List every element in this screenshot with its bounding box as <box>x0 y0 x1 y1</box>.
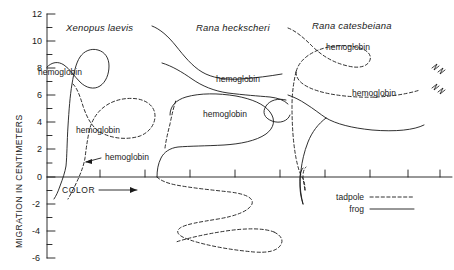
y-tick-label: 6 <box>20 90 42 100</box>
y-tick-label: 4 <box>20 117 42 127</box>
hemoglobin-label: hemoglobin <box>203 109 247 119</box>
y-tick-label: -6 <box>18 253 40 263</box>
axis-break-mark-upper <box>432 64 445 74</box>
trace-catesbeiana-spike-dashed <box>303 167 306 190</box>
hemoglobin-label: hemoglobin <box>352 88 396 98</box>
color-arrow-head <box>130 187 137 193</box>
hemoglobin-label: hemoglobin <box>38 67 82 77</box>
baseline-ticks <box>100 170 440 177</box>
figure-canvas: MIGRATION IN CENTIMETERS 12 10 8 6 4 2 0… <box>0 0 454 270</box>
color-axis-label: COLOR <box>62 185 95 195</box>
trace-heckscheri-tadpole <box>165 100 176 148</box>
hemoglobin-label: hemoglobin <box>216 74 260 84</box>
trace-catesbeiana-spike-solid <box>300 168 303 204</box>
y-tick-label: -2 <box>18 199 40 209</box>
hemoglobin-label: hemoglobin <box>76 125 120 135</box>
species-label-rana-catesbeiana: Rana catesbeiana <box>312 20 392 31</box>
legend-label-frog: frog <box>320 204 364 214</box>
hemoglobin-label: hemoglobin <box>326 42 370 52</box>
trace-catesbeiana-frog-2 <box>326 118 424 131</box>
trace-heckscheri-tadpole-2 <box>157 177 282 252</box>
species-label-rana-heckscheri: Rana heckscheri <box>196 22 270 33</box>
trace-catesbeiana-frog <box>288 95 326 118</box>
species-label-xenopus-laevis: Xenopus laevis <box>66 22 133 33</box>
y-tick-label: 0 <box>20 172 42 182</box>
trace-heckscheri-frog <box>152 26 282 79</box>
y-tick-label: 2 <box>20 144 42 154</box>
y-tick-label: 10 <box>20 36 42 46</box>
plot-svg <box>0 0 454 270</box>
hemoglobin-pointer-arrowhead <box>85 159 92 164</box>
legend-label-tadpole: tadpole <box>320 192 364 202</box>
hemoglobin-label: hemoglobin <box>105 152 149 162</box>
axis-break-mark-lower <box>432 84 445 94</box>
y-tick-label: -4 <box>18 226 40 236</box>
y-tick-label: 12 <box>20 9 42 19</box>
trace-xenopus-tadpole <box>68 84 155 199</box>
